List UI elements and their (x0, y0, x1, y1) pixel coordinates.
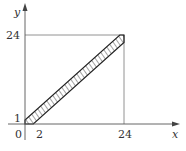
y-axis-arrow-icon (23, 3, 28, 11)
y-tick-24-label: 24 (6, 29, 20, 42)
x-axis-label: x (172, 128, 179, 141)
x-axis-arrow-icon (172, 122, 180, 127)
y-tick-1-label: 1 (14, 112, 21, 125)
x-tick-24-label: 24 (118, 128, 132, 141)
shaded-region (25, 35, 124, 124)
y-axis-label: y (13, 6, 21, 19)
region-diagram: y x 0 24 1 2 24 (0, 0, 186, 151)
origin-label: 0 (15, 128, 22, 141)
x-tick-2-label: 2 (36, 128, 43, 141)
